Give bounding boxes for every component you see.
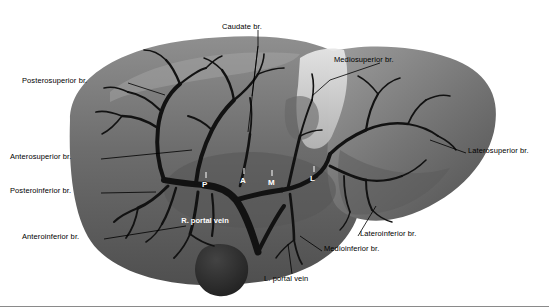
label-laterosuperior-br: Laterosuperior br. [468, 146, 529, 155]
label-anteroinferior-br: Anteroinferior br. [22, 232, 79, 241]
figure-root: Caudate br. Mediosuperior br. Posterosup… [0, 0, 549, 307]
label-mediosuperior-br: Mediosuperior br. [334, 55, 394, 64]
segment-mark-m: M [268, 178, 275, 187]
label-r-portal-vein: R. portal vein [178, 216, 232, 225]
liver-silhouette [70, 36, 496, 285]
segment-mark-a: A [240, 176, 246, 185]
label-medioinferior-br: Medioinferior br. [324, 244, 379, 253]
segment-mark-p: P [202, 180, 207, 189]
label-posteroinferior-br: Posteroinferior br. [10, 186, 71, 195]
label-posterosuperior-br: Posterosuperior br. [22, 76, 87, 85]
liver-portal-vein-diagram [0, 0, 549, 307]
segment-mark-l: L [310, 174, 315, 183]
label-caudate-br: Caudate br. [222, 22, 262, 31]
label-anterosuperior-br: Anterosuperior br. [10, 152, 71, 161]
gallbladder [195, 244, 248, 296]
label-lateroinferior-br: Lateroinferior br. [360, 229, 416, 238]
label-l-portal-vein: L. portal vein [264, 274, 308, 283]
